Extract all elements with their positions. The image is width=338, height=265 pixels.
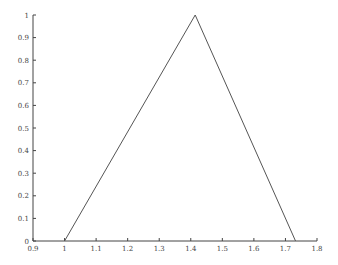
y-tick-label: 0.1 (18, 215, 29, 223)
y-tick-label: 0.7 (18, 79, 29, 87)
y-tick-label: 0.9 (18, 34, 29, 42)
y-tick-label: 1 (25, 12, 29, 20)
x-tick-label: 1.3 (154, 245, 165, 253)
x-tick-label: 1.7 (280, 245, 291, 253)
x-tick-label: 1.1 (91, 245, 102, 253)
x-tick-label: 1.4 (185, 245, 197, 253)
y-tick-label: 0.2 (18, 192, 29, 200)
line-chart: 0.911.11.21.31.41.51.61.71.8 00.10.20.30… (0, 0, 338, 265)
y-tick-label: 0.6 (18, 102, 30, 110)
x-tick-label: 1.8 (311, 245, 322, 253)
y-tick-label: 0.4 (18, 147, 30, 155)
y-tick-label: 0.3 (18, 170, 29, 178)
series-line-triangle (65, 15, 296, 241)
plot-area (65, 15, 296, 241)
axes (33, 15, 317, 241)
y-tick-label: 0.8 (18, 57, 29, 65)
x-tick-label: 1.5 (217, 245, 228, 253)
x-tick-label: 1.6 (248, 245, 260, 253)
y-tick-label: 0.5 (18, 125, 29, 133)
x-tick-label: 1 (62, 245, 66, 253)
y-tick-label: 0 (25, 238, 29, 246)
x-axis-ticks: 0.911.11.21.31.41.51.61.71.8 (27, 238, 322, 253)
x-tick-label: 0.9 (27, 245, 38, 253)
x-tick-label: 1.2 (122, 245, 133, 253)
